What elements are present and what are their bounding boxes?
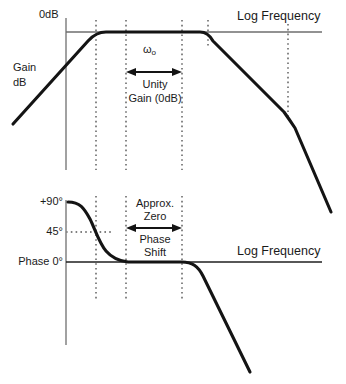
phase-shift-label-line2: Zero	[114, 211, 196, 223]
center-frequency-label: ωo	[143, 44, 156, 59]
gain-x-axis-label: Log Frequency	[237, 11, 320, 23]
unity-gain-label-line2: Gain (0dB)	[114, 93, 196, 105]
bode-plot-figure: 0dB Log Frequency Gain dB ωo Unity Gain …	[0, 0, 346, 384]
gain-y-axis-label-line2: dB	[13, 77, 26, 89]
phase-tick-plus90-label: +90°	[6, 196, 63, 208]
phase-tick-45-label: 45°	[6, 226, 63, 238]
phase-shift-label-line4: Shift	[114, 247, 196, 259]
phase-shift-label-line3: Phase	[114, 234, 196, 246]
unity-gain-span-arrow	[126, 68, 182, 76]
phase-x-axis-label: Log Frequency	[237, 246, 320, 258]
gain-y-axis-label-line1: Gain	[13, 62, 36, 74]
gain-curve	[13, 32, 331, 212]
unity-gain-label-line1: Unity	[114, 79, 196, 91]
bode-plot-graphics	[0, 0, 346, 384]
omega-symbol: ω	[143, 43, 152, 55]
gain-zero-db-label: 0dB	[39, 9, 59, 21]
phase-shift-span-arrow	[126, 224, 182, 232]
omega-subscript: o	[152, 48, 156, 57]
phase-tick-zero-label: Phase 0°	[0, 256, 63, 268]
phase-shift-label-line1: Approx.	[114, 198, 196, 210]
